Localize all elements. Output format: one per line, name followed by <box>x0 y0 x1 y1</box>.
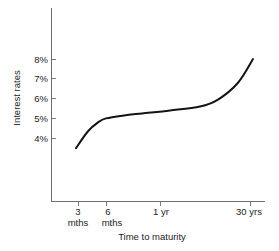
chart-canvas: 8% 7% 6% 5% 4% 3 mths 6 mths 1 yr 30 yrs… <box>0 0 279 251</box>
y-tick-label-4: 4% <box>34 133 48 144</box>
yield-curve-chart: 8% 7% 6% 5% 4% 3 mths 6 mths 1 yr 30 yrs… <box>0 0 279 251</box>
x-axis-title: Time to maturity <box>118 231 186 242</box>
y-axis-title: Interest rates <box>11 70 22 126</box>
y-tick-label-7: 7% <box>34 73 48 84</box>
x-tick-label-3-mths: mths <box>68 217 89 228</box>
y-tick-label-5: 5% <box>34 113 48 124</box>
x-tick-label-1-yr: 1 yr <box>153 206 169 217</box>
x-tick-label-6: 6 <box>105 206 110 217</box>
y-tick-label-6: 6% <box>34 93 48 104</box>
x-tick-label-30-yrs: 30 yrs <box>236 206 262 217</box>
x-tick-label-3: 3 <box>75 206 80 217</box>
y-tick-label-8: 8% <box>34 54 48 65</box>
x-tick-label-6-mths: mths <box>102 217 123 228</box>
